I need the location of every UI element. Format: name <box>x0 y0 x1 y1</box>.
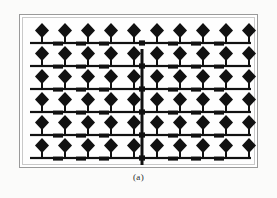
impedance-stub-r6-s1 <box>53 157 63 161</box>
diamond-patch-r5-c1 <box>35 115 49 130</box>
diamond-patch-r4-c2 <box>58 92 72 107</box>
patch-stem-r6-c5 <box>133 152 135 158</box>
diamond-patch-r2-c8 <box>196 46 210 61</box>
patch-stem-r1-c8 <box>202 37 204 43</box>
patch-stem-r4-c1 <box>41 106 43 112</box>
patch-stem-r6-c8 <box>202 152 204 158</box>
patch-stem-r4-c9 <box>225 106 227 112</box>
impedance-stub-r4-s4 <box>168 111 178 115</box>
impedance-stub-r5-s2 <box>76 134 86 138</box>
diamond-patch-r1-c8 <box>196 23 210 38</box>
patch-stem-r3-c4 <box>110 83 112 89</box>
feed-junction-1 <box>139 40 145 45</box>
patch-stem-r1-c6 <box>156 37 158 43</box>
diamond-patch-r3-c7 <box>173 69 187 84</box>
impedance-stub-r1-s4 <box>168 42 178 46</box>
patch-stem-r6-c1 <box>41 152 43 158</box>
patch-stem-r2-c8 <box>202 60 204 66</box>
impedance-stub-r2-s3 <box>99 65 109 69</box>
patch-stem-r6-c4 <box>110 152 112 158</box>
patch-stem-r3-c6 <box>156 83 158 89</box>
patch-stem-r6-c9 <box>225 152 227 158</box>
diamond-patch-r1-c7 <box>173 23 187 38</box>
diamond-patch-r6-c3 <box>81 138 95 153</box>
diamond-patch-r6-c5 <box>127 138 141 153</box>
impedance-stub-r6-s4 <box>168 157 178 161</box>
patch-stem-r3-c9 <box>225 83 227 89</box>
patch-stem-r4-c4 <box>110 106 112 112</box>
impedance-stub-r3-s6 <box>214 88 224 92</box>
impedance-stub-r2-s1 <box>53 65 63 69</box>
patch-stem-r5-c4 <box>110 129 112 135</box>
patch-stem-r4-c6 <box>156 106 158 112</box>
patch-stem-r1-c7 <box>179 37 181 43</box>
diamond-patch-r5-c2 <box>58 115 72 130</box>
impedance-stub-r3-s4 <box>168 88 178 92</box>
patch-stem-r2-c7 <box>179 60 181 66</box>
diamond-patch-r2-c3 <box>81 46 95 61</box>
patch-stem-r6-c2 <box>64 152 66 158</box>
patch-stem-r2-c2 <box>64 60 66 66</box>
diamond-patch-r4-c10 <box>242 92 256 107</box>
diamond-patch-r2-c5 <box>127 46 141 61</box>
impedance-stub-r5-s4 <box>168 134 178 138</box>
figure-root: (a) <box>0 0 277 198</box>
patch-stem-r2-c6 <box>156 60 158 66</box>
patch-stem-r5-c7 <box>179 129 181 135</box>
impedance-stub-r3-s2 <box>76 88 86 92</box>
diamond-patch-r3-c6 <box>150 69 164 84</box>
patch-stem-r3-c5 <box>133 83 135 89</box>
patch-stem-r6-c10 <box>248 152 250 158</box>
impedance-stub-r1-s2 <box>76 42 86 46</box>
diamond-patch-r4-c5 <box>127 92 141 107</box>
diamond-patch-r5-c4 <box>104 115 118 130</box>
patch-stem-r1-c2 <box>64 37 66 43</box>
patch-stem-r4-c5 <box>133 106 135 112</box>
diamond-patch-r1-c10 <box>242 23 256 38</box>
diamond-patch-r4-c8 <box>196 92 210 107</box>
feed-junction-3 <box>139 86 145 91</box>
impedance-stub-r4-s2 <box>76 111 86 115</box>
patch-stem-r5-c2 <box>64 129 66 135</box>
diamond-patch-r6-c7 <box>173 138 187 153</box>
diamond-patch-r1-c4 <box>104 23 118 38</box>
patch-stem-r4-c2 <box>64 106 66 112</box>
impedance-stub-r4-s1 <box>53 111 63 115</box>
diamond-patch-r3-c2 <box>58 69 72 84</box>
diamond-patch-r5-c3 <box>81 115 95 130</box>
diamond-patch-r6-c8 <box>196 138 210 153</box>
patch-stem-r6-c7 <box>179 152 181 158</box>
impedance-stub-r6-s5 <box>191 157 201 161</box>
impedance-stub-r5-s3 <box>99 134 109 138</box>
diamond-patch-r3-c3 <box>81 69 95 84</box>
diamond-patch-r3-c4 <box>104 69 118 84</box>
patch-stem-r2-c5 <box>133 60 135 66</box>
impedance-stub-r5-s5 <box>191 134 201 138</box>
patch-stem-r2-c4 <box>110 60 112 66</box>
impedance-stub-r3-s5 <box>191 88 201 92</box>
impedance-stub-r2-s6 <box>214 65 224 69</box>
patch-stem-r4-c7 <box>179 106 181 112</box>
diamond-patch-r4-c6 <box>150 92 164 107</box>
impedance-stub-r1-s3 <box>99 42 109 46</box>
patch-stem-r2-c1 <box>41 60 43 66</box>
diamond-patch-r2-c6 <box>150 46 164 61</box>
patch-stem-r3-c1 <box>41 83 43 89</box>
diamond-patch-r2-c9 <box>219 46 233 61</box>
patch-stem-r3-c3 <box>87 83 89 89</box>
feed-junction-5 <box>139 132 145 137</box>
patch-stem-r5-c9 <box>225 129 227 135</box>
diamond-patch-r5-c5 <box>127 115 141 130</box>
patch-stem-r4-c3 <box>87 106 89 112</box>
patch-stem-r1-c4 <box>110 37 112 43</box>
diamond-patch-r1-c9 <box>219 23 233 38</box>
patch-stem-r2-c3 <box>87 60 89 66</box>
diamond-patch-r3-c10 <box>242 69 256 84</box>
impedance-stub-r4-s3 <box>99 111 109 115</box>
diamond-patch-r2-c7 <box>173 46 187 61</box>
diamond-patch-r1-c5 <box>127 23 141 38</box>
impedance-stub-r4-s5 <box>191 111 201 115</box>
figure-caption: (a) <box>0 172 277 182</box>
diamond-patch-r6-c10 <box>242 138 256 153</box>
diamond-patch-r5-c7 <box>173 115 187 130</box>
